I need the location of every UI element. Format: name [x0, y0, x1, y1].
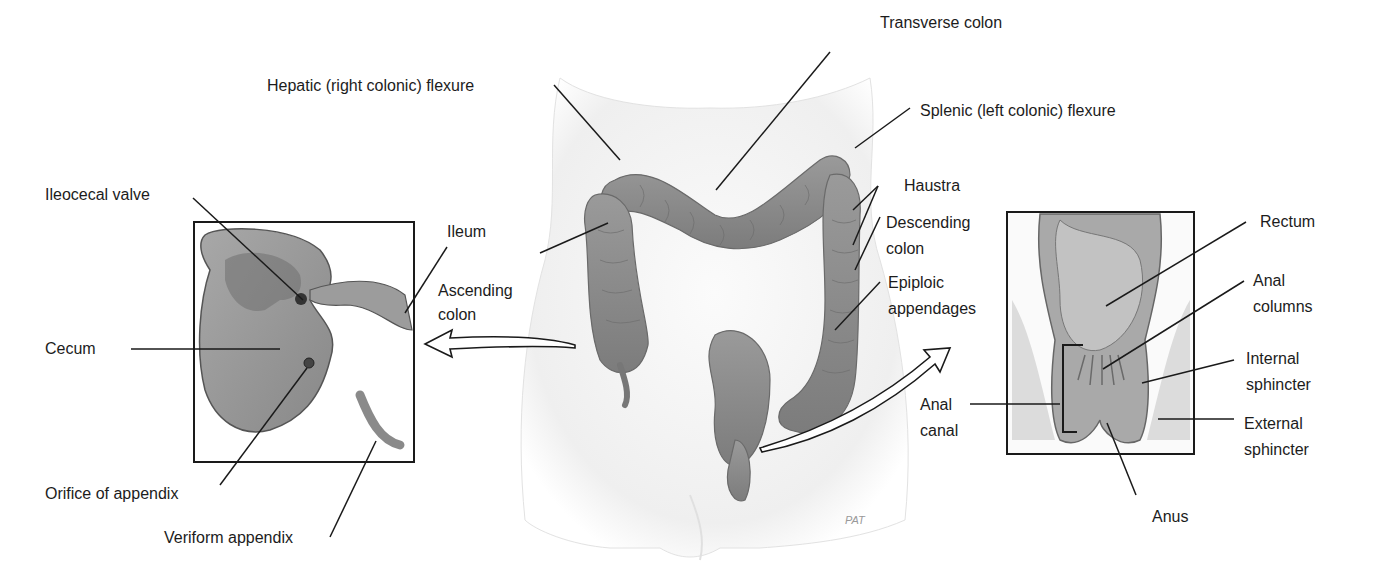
- label-anus: Anus: [1152, 506, 1188, 527]
- label-internal-sphincter-line2: sphincter: [1246, 374, 1311, 395]
- left-inset-cecum: [194, 222, 414, 462]
- label-orifice-of-appendix: Orifice of appendix: [45, 483, 178, 504]
- label-cecum: Cecum: [45, 338, 96, 359]
- label-epiploic-line2: appendages: [888, 298, 976, 319]
- label-veriform-appendix: Veriform appendix: [164, 527, 293, 548]
- label-descending-colon-line1: Descending: [886, 212, 971, 233]
- label-ascending-colon-line1: Ascending: [438, 280, 513, 301]
- label-transverse-colon: Transverse colon: [880, 12, 1002, 33]
- label-anal-canal-line2: canal: [920, 420, 958, 441]
- label-rectum: Rectum: [1260, 211, 1315, 232]
- label-anal-canal-line1: Anal: [920, 394, 952, 415]
- label-external-sphincter-line1: External: [1244, 413, 1303, 434]
- label-ascending-colon-line2: colon: [438, 304, 476, 325]
- label-anal-columns-line2: columns: [1253, 296, 1313, 317]
- label-ileum: Ileum: [447, 221, 486, 242]
- anatomy-diagram: Transverse colon Hepatic (right colonic)…: [0, 0, 1377, 580]
- diagram-artwork: [0, 0, 1377, 580]
- label-anal-columns-line1: Anal: [1253, 270, 1285, 291]
- label-splenic-flexure: Splenic (left colonic) flexure: [920, 100, 1116, 121]
- label-internal-sphincter-line1: Internal: [1246, 348, 1299, 369]
- right-inset-rectum: [1007, 212, 1194, 454]
- label-external-sphincter-line2: sphincter: [1244, 439, 1309, 460]
- label-descending-colon-line2: colon: [886, 238, 924, 259]
- label-epiploic-line1: Epiploic: [888, 272, 944, 293]
- label-ileocecal-valve: Ileocecal valve: [45, 184, 150, 205]
- artist-signature: PAT: [845, 510, 865, 531]
- label-hepatic-flexure: Hepatic (right colonic) flexure: [267, 75, 474, 96]
- label-haustra: Haustra: [904, 175, 960, 196]
